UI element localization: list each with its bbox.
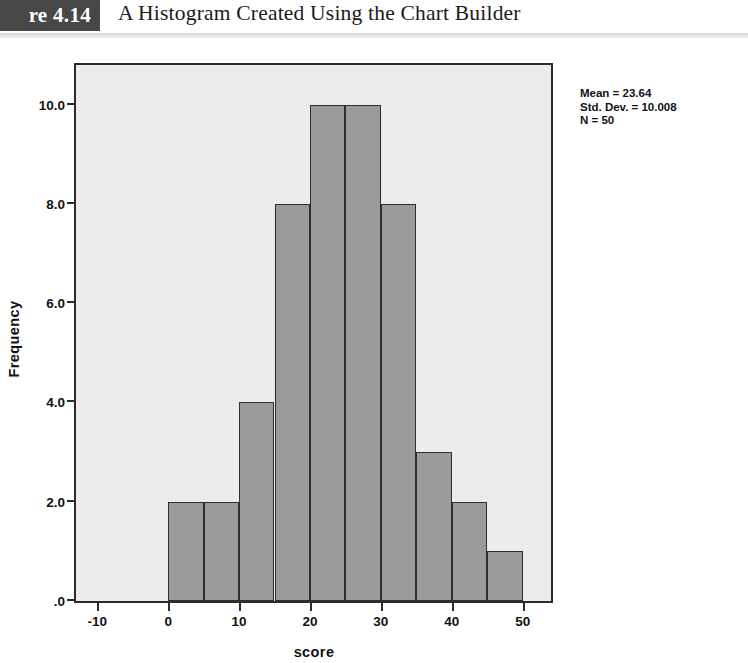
x-axis-tick [168, 601, 170, 611]
y-axis-tick-label: 2.0 [46, 494, 65, 509]
figure-number-banner: re 4.14 [0, 0, 100, 31]
y-axis-tick-label: 8.0 [46, 196, 65, 211]
x-axis-tick [381, 601, 383, 611]
x-axis-tick [239, 601, 241, 611]
x-axis-tick [97, 601, 99, 611]
histogram-bar [239, 402, 274, 601]
x-axis-title: score [294, 644, 335, 660]
x-axis-tick-label: 40 [444, 614, 459, 629]
histogram-chart: Frequency score .02.04.06.08.010.0 -1001… [0, 40, 748, 663]
histogram-bar [487, 551, 522, 601]
histogram-bar [416, 452, 451, 601]
figure-number-label: re 4.14 [29, 3, 91, 28]
x-axis-tick [452, 601, 454, 611]
histogram-bar [168, 502, 203, 601]
y-axis-tick [67, 599, 76, 601]
y-axis-tick [67, 202, 76, 204]
plot-area: .02.04.06.08.010.0 -1001020304050 [74, 63, 553, 603]
y-axis-tick [67, 500, 76, 502]
y-axis-tick [67, 301, 76, 303]
figure-header: re 4.14 A Histogram Created Using the Ch… [0, 0, 748, 36]
x-axis-tick-label: 0 [164, 614, 172, 629]
stats-n: N = 50 [580, 114, 677, 128]
x-axis-tick-label: 20 [302, 614, 317, 629]
y-axis-tick-label: .0 [54, 594, 65, 609]
figure-caption: A Histogram Created Using the Chart Buil… [118, 1, 521, 26]
stats-std-dev: Std. Dev. = 10.008 [580, 101, 677, 115]
stats-mean: Mean = 23.64 [580, 87, 677, 101]
histogram-bar [381, 204, 416, 601]
y-axis-tick-label: 4.0 [46, 395, 65, 410]
plot-inner: .02.04.06.08.010.0 -1001020304050 [76, 65, 551, 601]
x-axis-tick-label: 30 [373, 614, 388, 629]
y-axis-tick [67, 103, 76, 105]
y-axis-title: Frequency [6, 301, 22, 378]
y-axis-tick [67, 400, 76, 402]
x-axis-tick [310, 601, 312, 611]
histogram-bar [452, 502, 487, 601]
histogram-bar [204, 502, 239, 601]
y-axis-tick-label: 10.0 [39, 97, 65, 112]
x-axis-tick-label: -10 [88, 614, 108, 629]
histogram-bar [345, 105, 380, 601]
x-axis-tick-label: 50 [515, 614, 530, 629]
statistics-annotation: Mean = 23.64 Std. Dev. = 10.008 N = 50 [580, 87, 677, 128]
histogram-bar [310, 105, 345, 601]
header-divider [0, 33, 748, 38]
x-axis-tick-label: 10 [232, 614, 247, 629]
x-axis-tick [523, 601, 525, 611]
y-axis-tick-label: 6.0 [46, 296, 65, 311]
histogram-bar [275, 204, 310, 601]
